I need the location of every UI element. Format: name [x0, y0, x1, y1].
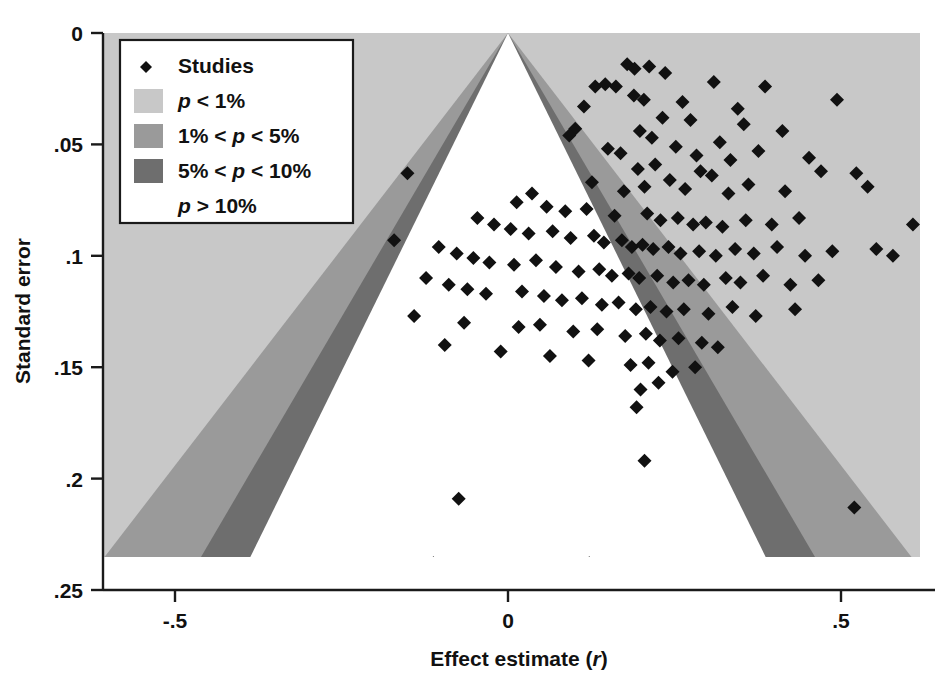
y-axis-tick-label: .1 — [65, 245, 83, 268]
funnel-plot-svg: -.50.5 0.05.1.15.2.25 Effect estimate (r… — [0, 0, 939, 680]
x-axis-tick-label: -.5 — [163, 609, 188, 632]
legend-swatch — [134, 89, 163, 113]
funnel-plot-figure: -.50.5 0.05.1.15.2.25 Effect estimate (r… — [0, 0, 939, 680]
legend-swatch — [134, 159, 163, 183]
legend-swatch — [134, 124, 163, 148]
y-axis-tick-labels: 0.05.1.15.2.25 — [54, 22, 84, 602]
y-axis-tick-label: .2 — [65, 468, 83, 491]
x-axis-tick-label: 0 — [502, 609, 514, 632]
y-axis-tick-label: .15 — [54, 356, 84, 379]
data-point — [582, 556, 596, 570]
x-axis-tick-labels: -.50.5 — [163, 609, 850, 632]
y-axis-label: Standard error — [11, 238, 34, 384]
legend-label: 1% < p < 5% — [178, 124, 300, 147]
y-axis-ticks — [91, 33, 103, 590]
legend: Studiesp < 1%1% < p < 5%5% < p < 10%p > … — [120, 40, 353, 223]
data-point — [426, 556, 440, 570]
legend-label: Studies — [178, 54, 254, 77]
legend-label: p < 1% — [177, 89, 245, 112]
x-axis-label: Effect estimate (r) — [430, 647, 607, 670]
y-axis-tick-label: .25 — [54, 579, 84, 602]
y-axis-tick-label: .05 — [54, 133, 84, 156]
x-axis-tick-label: .5 — [832, 609, 850, 632]
legend-label: 5% < p < 10% — [178, 159, 311, 182]
legend-label: p > 10% — [177, 194, 257, 217]
y-axis-tick-label: 0 — [71, 22, 83, 45]
x-axis-ticks — [175, 590, 841, 602]
